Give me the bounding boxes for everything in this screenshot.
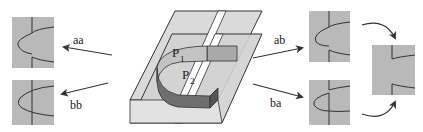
label-p2: P xyxy=(182,67,189,82)
label-bb: bb xyxy=(70,98,82,112)
panel-ba-result xyxy=(309,80,350,125)
arrow-bb: bb xyxy=(62,83,108,112)
label-ba: ba xyxy=(270,96,282,110)
curved-arrow-bottom xyxy=(362,102,395,116)
label-ab: ab xyxy=(274,33,285,47)
diagram-canvas: aa bb P 1 P 2 ab ba xyxy=(0,0,423,132)
curved-arrow-top xyxy=(362,23,395,38)
panel-merged-result xyxy=(372,45,415,95)
central-sheet-figure: P 1 P 2 xyxy=(130,11,262,123)
label-p1: P xyxy=(172,45,179,60)
label-p1-sub: 1 xyxy=(180,54,185,64)
arrow-ba: ba xyxy=(253,84,302,110)
label-aa: aa xyxy=(73,33,84,47)
panel-aa-result xyxy=(12,17,54,68)
label-p2-sub: 2 xyxy=(190,76,195,86)
panel-bb-result xyxy=(12,80,54,125)
arrow-aa: aa xyxy=(64,33,112,55)
panel-ab-result xyxy=(309,11,350,62)
